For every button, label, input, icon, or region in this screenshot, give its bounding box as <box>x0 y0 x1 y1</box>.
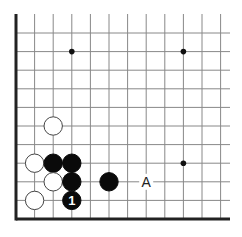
black-stone-icon <box>63 173 81 191</box>
markers: A <box>139 174 153 190</box>
star-point-icon <box>181 160 187 166</box>
white-stone-icon <box>44 117 62 135</box>
black-stone-icon <box>100 173 118 191</box>
black-stone-icon <box>63 154 81 172</box>
white-stone-icon <box>25 191 43 209</box>
black-stone-icon <box>44 154 62 172</box>
move-number-label: 1 <box>68 193 75 208</box>
white-stone-icon <box>44 173 62 191</box>
star-point-icon <box>69 49 75 55</box>
point-label-a: A <box>142 174 152 190</box>
white-stone-icon <box>25 154 43 172</box>
star-point-icon <box>181 49 187 55</box>
go-board: A 1 <box>0 0 242 237</box>
